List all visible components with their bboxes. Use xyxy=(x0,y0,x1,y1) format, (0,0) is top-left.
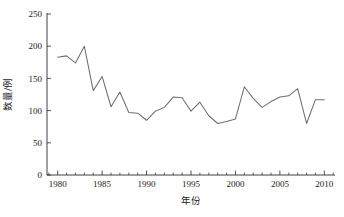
x-tick-label: 1990 xyxy=(138,179,157,189)
x-tick-label-group: 1980198519901995200020052010 xyxy=(49,179,334,189)
chart-canvas: 050100150200250 198019851990199520002005… xyxy=(0,0,344,217)
x-tick-label: 2010 xyxy=(315,179,334,189)
x-tick-label: 1980 xyxy=(49,179,68,189)
y-tick-label: 150 xyxy=(29,74,43,84)
y-tick-label: 100 xyxy=(29,106,43,116)
x-tick-label: 2000 xyxy=(226,179,245,189)
y-tick-label: 200 xyxy=(29,41,43,51)
y-tick-label: 250 xyxy=(29,9,43,19)
y-tick-label-group: 050100150200250 xyxy=(29,9,43,180)
y-axis-title: 数量/例 xyxy=(2,78,13,111)
line-chart: 050100150200250 198019851990199520002005… xyxy=(0,0,344,217)
x-tick-label: 1995 xyxy=(182,179,201,189)
y-tick-label: 0 xyxy=(38,170,43,180)
x-tick-label: 1985 xyxy=(93,179,112,189)
y-tick-label: 50 xyxy=(33,138,43,148)
data-series-line xyxy=(58,46,325,123)
x-tick-label: 2005 xyxy=(271,179,290,189)
x-axis-title: 年份 xyxy=(181,195,201,206)
